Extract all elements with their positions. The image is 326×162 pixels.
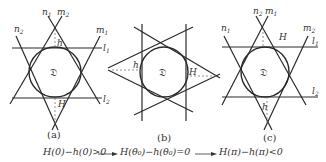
label-m2: m2 xyxy=(303,23,316,34)
formula-line: H(0)−h(0)>0 H(θ₀)−h(θ₀)=0 H(π)−h(π)<0 xyxy=(0,146,326,162)
label-m2: m2 xyxy=(57,7,70,18)
caption-c: (c) xyxy=(263,132,277,143)
formula-part-3: H(π)−h(π)<0 xyxy=(219,146,283,157)
formula-part-2: H(θ₀)−h(θ₀)=0 xyxy=(120,146,190,157)
label-m1: m1 xyxy=(265,6,277,17)
formula-part-1: H(0)−h(0)>0 xyxy=(43,146,106,157)
line-n1 xyxy=(224,36,272,130)
panel-a: n1 m2 n2 m1 l1 l2 h H 𝔇 (a) xyxy=(10,7,110,140)
caption-b: (b) xyxy=(157,132,171,143)
caption-a: (a) xyxy=(47,129,61,140)
label-n2: n2 xyxy=(14,24,24,35)
panel-c: n2 m1 n1 m2 l1 l2 H h 𝔇 (c) xyxy=(221,6,319,143)
line-right-lower xyxy=(134,74,220,115)
label-l1: l1 xyxy=(103,43,110,54)
label-n1: n1 xyxy=(221,23,231,34)
label-h: h xyxy=(262,102,268,112)
label-H: H xyxy=(188,67,197,77)
label-h: h xyxy=(133,60,139,70)
line-n2 xyxy=(256,16,306,105)
label-l2: l2 xyxy=(312,86,319,97)
line-m1 xyxy=(52,36,100,130)
label-domain: 𝔇 xyxy=(50,67,57,78)
label-domain: 𝔇 xyxy=(159,67,166,78)
line-left-upper xyxy=(108,27,193,68)
diagram-canvas: n1 m2 n2 m1 l1 l2 h H 𝔇 (a) h H 𝔇 (b) xyxy=(0,0,326,162)
label-m1: m1 xyxy=(96,25,108,36)
label-H: H xyxy=(57,99,66,109)
label-n2: n2 xyxy=(253,6,263,17)
label-n1: n1 xyxy=(42,7,52,18)
label-domain: 𝔇 xyxy=(260,67,267,78)
label-l2: l2 xyxy=(103,94,110,105)
line-n1 xyxy=(48,16,100,104)
label-l1: l1 xyxy=(312,36,319,47)
label-h: h xyxy=(57,38,63,48)
panel-b: h H 𝔇 (b) xyxy=(108,24,220,143)
label-H: H xyxy=(278,32,287,42)
